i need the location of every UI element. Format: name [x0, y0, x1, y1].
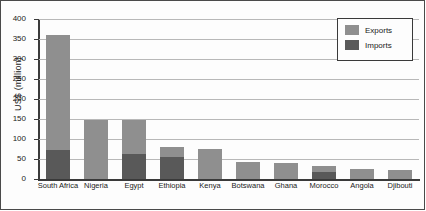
- chart-legend: Exports Imports: [337, 18, 413, 61]
- y-tick-mark: [34, 179, 39, 180]
- bar-segment-exports[interactable]: [274, 163, 298, 179]
- bar-segment-imports[interactable]: [46, 150, 70, 179]
- y-tick-label: 0: [0, 175, 26, 183]
- y-tick-label: 200: [0, 95, 26, 103]
- legend-swatch-imports: [345, 40, 359, 50]
- bar-segment-exports[interactable]: [84, 120, 108, 179]
- y-tick-label: 300: [0, 55, 26, 63]
- chart-container: US$ (million) 050100150200250300350400 S…: [0, 0, 425, 210]
- legend-label-exports: Exports: [365, 26, 392, 35]
- y-tick-label: 150: [0, 115, 26, 123]
- bar-segment-exports[interactable]: [350, 169, 374, 179]
- bar-segment-exports[interactable]: [388, 170, 412, 179]
- bar-segment-imports[interactable]: [122, 154, 146, 179]
- legend-item-imports: Imports: [345, 40, 412, 50]
- bar-segment-exports[interactable]: [198, 149, 222, 179]
- x-axis-label: Djibouti: [372, 182, 426, 191]
- bar-segment-imports[interactable]: [160, 157, 184, 179]
- y-tick-label: 50: [0, 155, 26, 163]
- legend-swatch-exports: [345, 25, 359, 35]
- legend-label-imports: Imports: [365, 41, 392, 50]
- bar-segment-exports[interactable]: [236, 162, 260, 179]
- legend-item-exports: Exports: [345, 25, 412, 35]
- y-tick-label: 100: [0, 135, 26, 143]
- y-tick-label: 250: [0, 75, 26, 83]
- y-tick-label: 350: [0, 35, 26, 43]
- bar-segment-imports[interactable]: [312, 172, 336, 179]
- y-tick-label: 400: [0, 15, 26, 23]
